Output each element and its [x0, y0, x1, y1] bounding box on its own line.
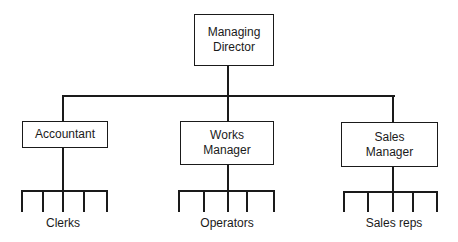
managing-director-line2: Director	[208, 40, 261, 55]
sales-manager-line1: Sales	[366, 130, 413, 145]
operator-leg	[273, 190, 275, 212]
clerk-leg	[62, 190, 64, 212]
accountant-stem-connector	[62, 148, 64, 192]
clerk-leg	[21, 190, 23, 212]
clerk-leg	[42, 190, 44, 212]
accountant-box: Accountant	[22, 121, 108, 148]
operators-label: Operators	[167, 216, 287, 230]
sales-manager-drop-connector	[392, 95, 394, 123]
sales-rep-leg	[436, 191, 438, 212]
works-manager-drop-connector	[227, 95, 229, 122]
sales-rep-leg	[343, 191, 345, 212]
works-manager-line1: Works	[203, 128, 250, 143]
sales-manager-line2: Manager	[366, 145, 413, 160]
accountant-drop-connector	[62, 95, 64, 122]
sales-reps-label: Sales reps	[334, 216, 454, 230]
works-manager-box: Works Manager	[180, 121, 274, 165]
clerk-leg	[83, 190, 85, 212]
managing-director-line1: Managing	[208, 25, 261, 40]
operator-leg	[227, 190, 229, 212]
operator-leg	[203, 190, 205, 212]
root-stem-connector	[227, 66, 229, 97]
accountant-label: Accountant	[35, 127, 95, 142]
sales-rep-leg	[412, 191, 414, 212]
clerks-fork-bar	[21, 190, 108, 192]
operator-leg	[246, 190, 248, 212]
managing-director-box: Managing Director	[194, 14, 274, 66]
sales-reps-fork-bar	[343, 191, 438, 193]
works-manager-line2: Manager	[203, 143, 250, 158]
sales-rep-leg	[392, 191, 394, 212]
works-manager-stem-connector	[227, 165, 229, 192]
clerks-label: Clerks	[3, 216, 123, 230]
sales-manager-stem-connector	[392, 167, 394, 192]
sales-manager-box: Sales Manager	[341, 122, 438, 167]
clerk-leg	[106, 190, 108, 212]
operator-leg	[178, 190, 180, 212]
sales-rep-leg	[367, 191, 369, 212]
